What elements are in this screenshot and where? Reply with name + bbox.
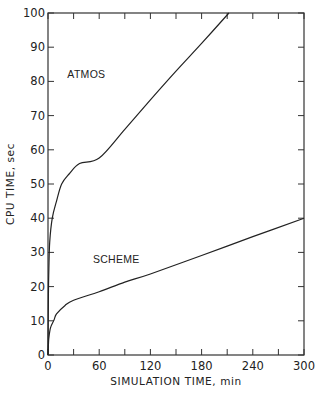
series-label-atmos: ATMOS: [67, 68, 105, 80]
y-tick-label: 10: [30, 314, 45, 328]
y-tick-label: 40: [30, 211, 45, 225]
series-line-scheme: [48, 218, 304, 355]
y-tick-label: 30: [30, 245, 45, 259]
y-tick-label: 80: [30, 74, 45, 88]
x-axis-title: SIMULATION TIME, min: [110, 375, 242, 387]
series-lines: [48, 13, 304, 355]
y-tick-label: 100: [23, 6, 45, 20]
x-tick-label: 180: [191, 359, 213, 373]
y-tick-label: 50: [30, 177, 45, 191]
x-tick-label: 120: [139, 359, 161, 373]
y-tick-label: 0: [38, 348, 45, 362]
axis-ticks: [48, 13, 304, 355]
plot-border: [48, 13, 304, 355]
cpu-time-chart: 0601201802403000102030405060708090100 AT…: [0, 0, 326, 393]
x-tick-label: 300: [293, 359, 315, 373]
series-labels: ATMOSSCHEME: [67, 68, 139, 265]
y-tick-label: 90: [30, 40, 45, 54]
y-tick-label: 70: [30, 109, 45, 123]
x-tick-label: 240: [242, 359, 264, 373]
series-line-atmos: [48, 13, 229, 355]
y-axis-title: CPU TIME, sec: [4, 143, 16, 225]
plot-frame: [48, 13, 304, 355]
series-label-scheme: SCHEME: [93, 253, 140, 265]
y-tick-label: 20: [30, 280, 45, 294]
axis-tick-labels: 0601201802403000102030405060708090100: [23, 6, 315, 373]
x-tick-label: 60: [92, 359, 107, 373]
x-tick-label: 0: [44, 359, 51, 373]
y-tick-label: 60: [30, 143, 45, 157]
